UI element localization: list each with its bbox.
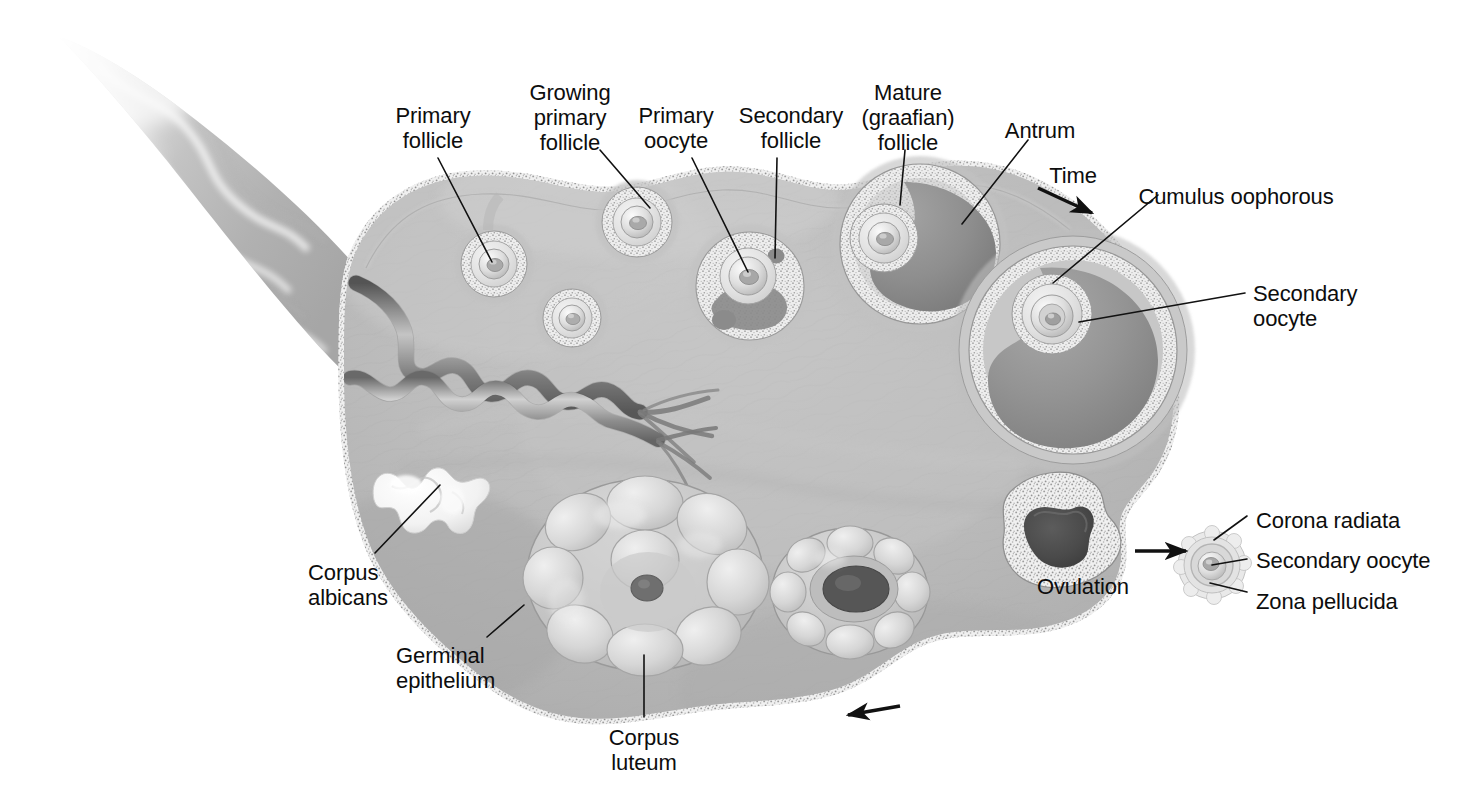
label-corona-radiata: Corona radiata (1256, 508, 1400, 533)
label-time: Time (1049, 163, 1097, 188)
label-ovulation: Ovulation (1037, 574, 1129, 599)
label-corpus-luteum: Corpus luteum (609, 725, 679, 775)
degenerating-corpus-luteum (770, 526, 930, 659)
label-mature-graafian: Mature (graafian) follicle (861, 80, 954, 155)
label-zona-pellucida: Zona pellucida (1256, 589, 1398, 614)
ovary-diagram (0, 0, 1462, 803)
label-secondary-follicle: Secondary follicle (739, 103, 843, 153)
secondary-follicle (688, 224, 812, 348)
label-primary-oocyte: Primary oocyte (638, 103, 713, 153)
mesovarium (30, 10, 352, 382)
large-antral-follicle (951, 228, 1195, 472)
label-cumulus-oophorous: Cumulus oophorous (1138, 184, 1333, 209)
label-germinal-epithelium: Germinal epithelium (396, 643, 495, 693)
cycle-arrow (848, 706, 900, 715)
label-primary-follicle: Primary follicle (395, 103, 470, 153)
label-secondary-oocyte-sm: Secondary oocyte (1256, 548, 1431, 573)
corpus-luteum (523, 476, 769, 676)
label-secondary-oocyte-big: Secondary oocyte (1253, 281, 1357, 331)
primary-follicle-2 (536, 282, 608, 354)
label-corpus-albicans: Corpus albicans (308, 560, 388, 610)
label-antrum: Antrum (1005, 118, 1075, 143)
label-growing-primary: Growing primary follicle (529, 80, 610, 155)
figure-canvas: Primary follicleGrowing primary follicle… (0, 0, 1462, 803)
